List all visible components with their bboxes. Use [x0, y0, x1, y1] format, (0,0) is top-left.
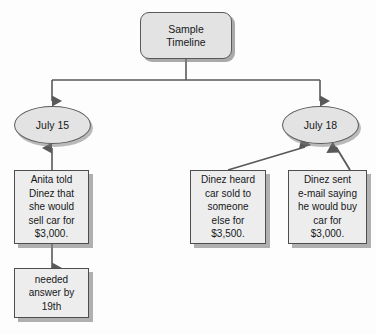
node-date-july-18[interactable]: July 18 [282, 106, 359, 144]
edge-heard-to-july18 [228, 147, 305, 170]
node-event-sent-label: Dinez sent e-mail saying he would buy ca… [298, 173, 357, 240]
node-event-anita-label: Anita told Dinez that she would sell car… [28, 173, 74, 240]
node-event-heard-label: Dinez heard car sold to someone else for… [201, 173, 255, 240]
diagram-canvas: Sample Timeline July 15 July 18 Anita to… [0, 0, 376, 334]
node-root-label: Sample Timeline [166, 23, 205, 49]
node-event-dinez-sent[interactable]: Dinez sent e-mail saying he would buy ca… [288, 170, 367, 244]
node-date-july-18-label: July 18 [304, 119, 337, 132]
node-date-july-15-label: July 15 [36, 119, 69, 132]
edge-sent-to-july18 [336, 147, 350, 170]
node-event-dinez-heard[interactable]: Dinez heard car sold to someone else for… [190, 170, 266, 244]
node-root-sample-timeline[interactable]: Sample Timeline [140, 12, 232, 59]
node-event-needed-answer[interactable]: needed answer by 19th [14, 268, 89, 318]
node-event-anita-told-dinez[interactable]: Anita told Dinez that she would sell car… [14, 170, 89, 244]
node-date-july-15[interactable]: July 15 [14, 106, 91, 144]
node-event-needed-label: needed answer by 19th [29, 273, 75, 313]
